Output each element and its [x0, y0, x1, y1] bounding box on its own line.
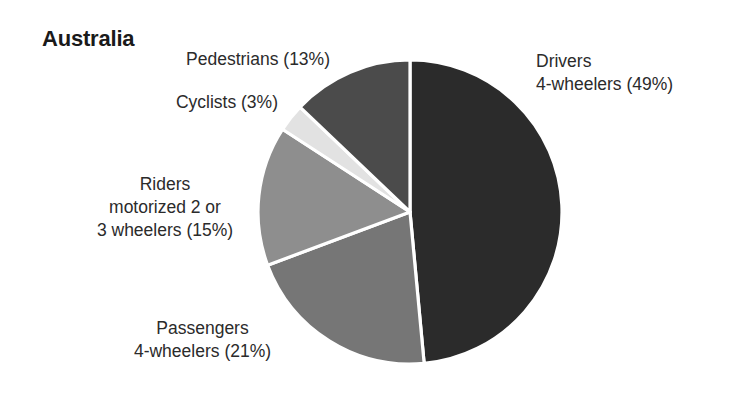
pie-chart-figure: Australia Pedestrians (13%) Cyclists (3%…: [0, 0, 747, 395]
pie-label-drivers-line1: Drivers: [536, 50, 746, 73]
pie-label-passengers-line2: 4-wheelers (21%): [80, 340, 325, 363]
pie-label-riders-line1: Riders: [45, 173, 285, 196]
pie-slice-drivers: [410, 60, 562, 363]
pie-label-pedestrians-line1: Pedestrians (13%): [0, 48, 330, 71]
pie-label-riders: Riders motorized 2 or 3 wheelers (15%): [45, 173, 285, 242]
pie-label-cyclists-line1: Cyclists (3%): [0, 91, 278, 114]
pie-label-cyclists: Cyclists (3%): [0, 91, 278, 114]
pie-label-drivers-line2: 4-wheelers (49%): [536, 73, 746, 96]
pie-label-riders-line2: motorized 2 or: [45, 196, 285, 219]
pie-label-drivers: Drivers 4-wheelers (49%): [536, 50, 746, 96]
pie-label-passengers-line1: Passengers: [80, 317, 325, 340]
pie-label-riders-line3: 3 wheelers (15%): [45, 219, 285, 242]
pie-label-passengers: Passengers 4-wheelers (21%): [80, 317, 325, 363]
pie-label-pedestrians: Pedestrians (13%): [0, 48, 330, 71]
